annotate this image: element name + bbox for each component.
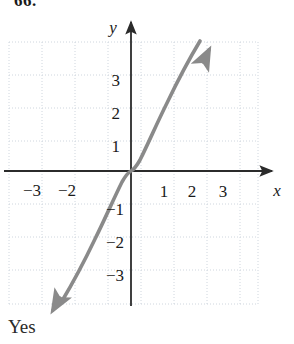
answer-text: Yes <box>8 316 36 338</box>
graph-figure: y x −3 −2 1 2 3 3 2 1 −1 −2 −3 <box>0 0 294 318</box>
x-tick-label-neg2: −2 <box>58 181 76 200</box>
x-tick-label-1: 1 <box>160 182 169 201</box>
y-tick-label-1: 1 <box>112 137 121 156</box>
y-tick-label-2: 2 <box>112 104 121 123</box>
y-tick-label-neg1: −1 <box>106 200 124 219</box>
y-tick-label-neg2: −2 <box>106 233 124 252</box>
curve-arrow-upper <box>203 50 209 62</box>
y-tick-label-neg3: −3 <box>106 266 124 285</box>
y-axis-label: y <box>107 18 117 37</box>
x-axis-label: x <box>272 181 281 200</box>
grid-lines <box>9 42 258 304</box>
x-tick-label-3: 3 <box>219 182 228 201</box>
y-tick-label-3: 3 <box>112 71 121 90</box>
x-tick-label-2: 2 <box>188 182 197 201</box>
x-tick-label-neg3: −3 <box>23 181 41 200</box>
coordinate-plane-svg: y x −3 −2 1 2 3 3 2 1 −1 −2 −3 <box>0 0 294 318</box>
